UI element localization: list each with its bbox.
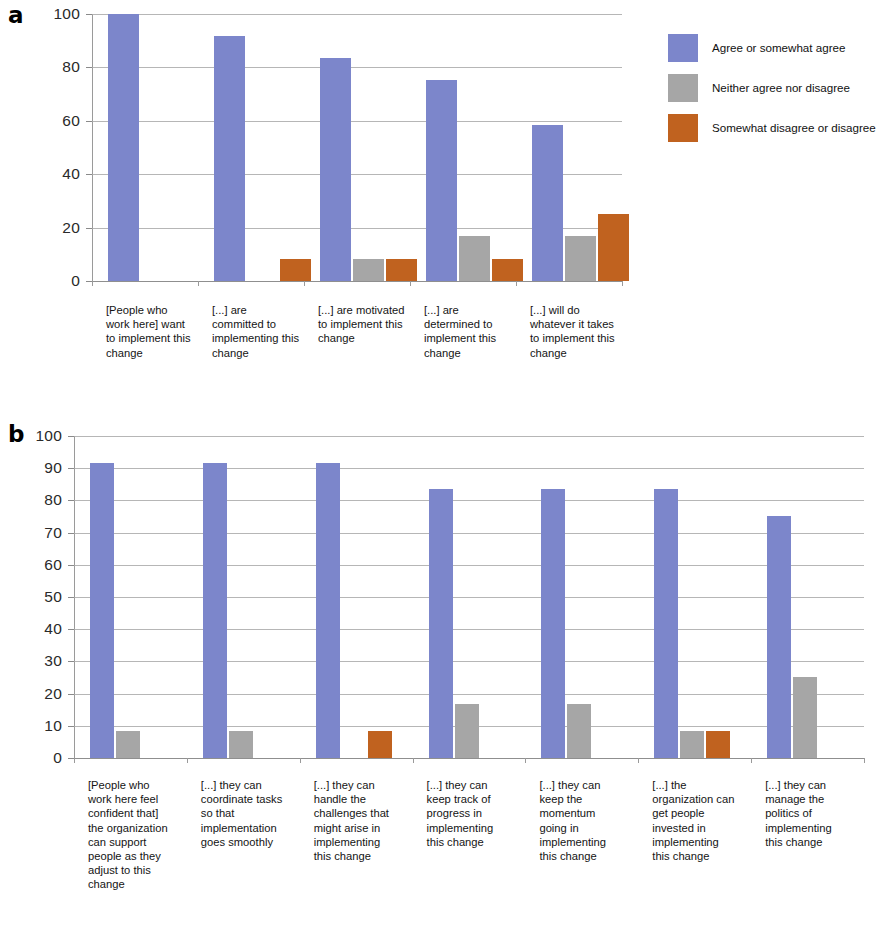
x-axis-category-label: [...] are determined to implement this c…	[424, 303, 512, 360]
y-tick-mark	[68, 597, 74, 598]
x-tick-mark	[187, 758, 188, 763]
x-tick-mark	[413, 758, 414, 763]
bar	[567, 704, 591, 758]
x-axis-category-label: [...] are committed to implementing this…	[212, 303, 300, 360]
y-axis-tick-label: 60	[44, 556, 62, 574]
x-axis-category-label: [...] they can coordinate tasks so that …	[201, 778, 287, 849]
y-axis-line	[92, 14, 93, 281]
gridline	[74, 436, 864, 437]
bar	[541, 489, 565, 758]
x-tick-mark	[74, 758, 75, 763]
x-axis-category-label: [People who work here feel confident tha…	[88, 778, 174, 892]
gridline	[74, 694, 864, 695]
panel-a-plot-area: 020406080100	[92, 14, 622, 281]
y-tick-mark	[68, 726, 74, 727]
bar	[316, 463, 340, 758]
y-tick-mark	[86, 228, 92, 229]
y-tick-mark	[68, 500, 74, 501]
y-axis-tick-label: 40	[44, 620, 62, 638]
y-tick-mark	[68, 694, 74, 695]
bar	[455, 704, 479, 758]
y-axis-tick-label: 10	[44, 717, 62, 735]
legend-item-label: Agree or somewhat agree	[712, 41, 845, 55]
y-axis-tick-label: 90	[44, 459, 62, 477]
y-tick-mark	[86, 174, 92, 175]
legend-swatch-icon	[668, 114, 698, 142]
y-axis-tick-label: 0	[53, 749, 62, 767]
x-axis-category-label: [...] are motivated to implement this ch…	[318, 303, 406, 346]
legend-item: Somewhat disagree or disagree	[668, 108, 888, 148]
x-tick-mark	[638, 758, 639, 763]
y-tick-mark	[86, 67, 92, 68]
bar	[320, 58, 351, 281]
y-axis-tick-label: 70	[44, 524, 62, 542]
x-tick-mark	[92, 281, 93, 286]
gridline	[74, 500, 864, 501]
legend-swatch-icon	[668, 74, 698, 102]
y-tick-mark	[86, 14, 92, 15]
bar	[654, 489, 678, 758]
panel-b-letter: b	[8, 423, 24, 446]
y-axis-tick-label: 40	[62, 165, 80, 183]
bar	[767, 516, 791, 758]
bar	[90, 463, 114, 758]
gridline	[74, 468, 864, 469]
y-axis-tick-label: 80	[62, 58, 80, 76]
panel-b-plot-area: 0102030405060708090100	[74, 436, 864, 758]
bar	[108, 14, 139, 281]
x-axis-category-label: [...] they can keep track of progress in…	[427, 778, 513, 849]
x-axis-category-label: [People who work here] want to implement…	[106, 303, 194, 360]
x-axis-category-label: [...] will do whatever it takes to imple…	[530, 303, 618, 360]
x-tick-mark	[410, 281, 411, 286]
x-tick-mark	[525, 758, 526, 763]
y-tick-mark	[68, 565, 74, 566]
legend-item: Agree or somewhat agree	[668, 28, 888, 68]
bar	[492, 259, 523, 281]
y-axis-tick-label: 100	[36, 427, 62, 445]
y-axis-tick-label: 30	[44, 652, 62, 670]
y-axis-tick-label: 100	[54, 5, 80, 23]
gridline	[74, 597, 864, 598]
y-tick-mark	[68, 533, 74, 534]
bar	[680, 731, 704, 758]
bar	[429, 489, 453, 758]
y-tick-mark	[68, 661, 74, 662]
y-tick-mark	[68, 629, 74, 630]
x-axis-category-label: [...] the organization can get people in…	[652, 778, 738, 863]
y-axis-tick-label: 0	[71, 272, 80, 290]
x-axis-category-label: [...] they can keep the momentum going i…	[539, 778, 625, 863]
x-tick-mark	[622, 281, 623, 286]
legend-item-label: Neither agree nor disagree	[712, 81, 850, 95]
gridline	[74, 533, 864, 534]
y-axis-tick-label: 20	[44, 685, 62, 703]
y-tick-mark	[68, 468, 74, 469]
bar	[203, 463, 227, 758]
bar	[426, 80, 457, 281]
gridline	[74, 661, 864, 662]
x-tick-mark	[516, 281, 517, 286]
bar	[229, 731, 253, 758]
y-axis-tick-label: 60	[62, 112, 80, 130]
y-tick-mark	[86, 121, 92, 122]
bar	[116, 731, 140, 758]
bar	[565, 236, 596, 281]
gridline	[74, 565, 864, 566]
chart-legend: Agree or somewhat agreeNeither agree nor…	[668, 28, 888, 148]
y-axis-tick-label: 50	[44, 588, 62, 606]
x-tick-mark	[300, 758, 301, 763]
x-tick-mark	[751, 758, 752, 763]
x-axis-line	[92, 281, 622, 282]
bar	[706, 731, 730, 758]
x-tick-mark	[304, 281, 305, 286]
bar	[459, 236, 490, 281]
gridline	[92, 121, 622, 122]
bar	[386, 259, 417, 281]
gridline	[74, 629, 864, 630]
panel-a-letter: a	[8, 4, 24, 27]
y-axis-tick-label: 20	[62, 219, 80, 237]
bar	[280, 259, 311, 281]
x-axis-category-label: [...] they can manage the politics of im…	[765, 778, 851, 849]
gridline	[92, 67, 622, 68]
x-tick-mark	[198, 281, 199, 286]
bar	[532, 125, 563, 281]
